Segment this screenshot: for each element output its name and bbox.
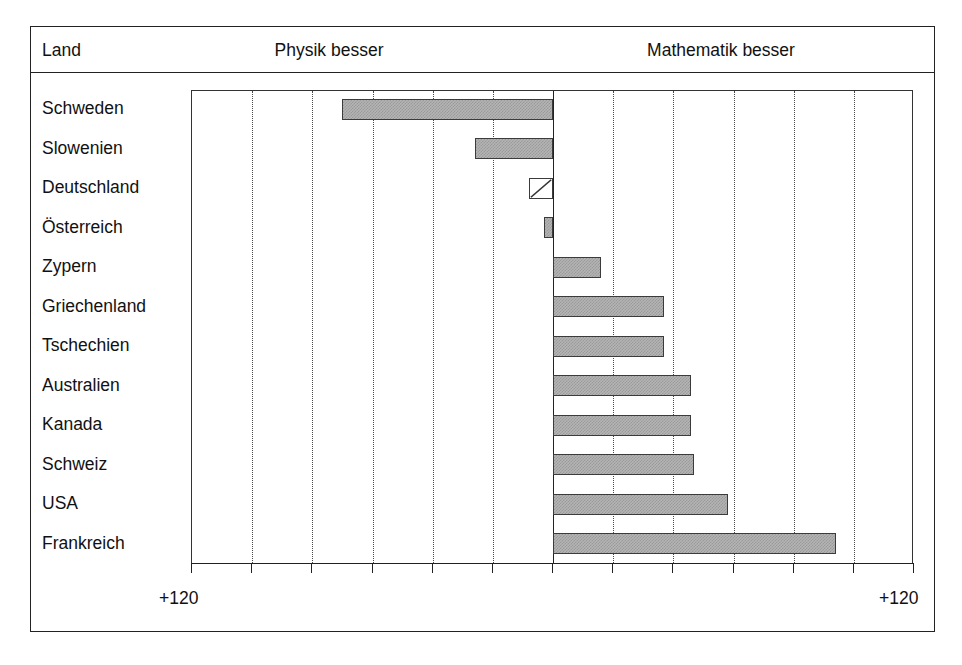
category-label: Kanada: [42, 414, 102, 434]
bar-tschechien: [553, 336, 664, 357]
category-label: Österreich: [42, 217, 123, 237]
x-axis-tick: [492, 563, 493, 573]
x-axis-tick: [372, 563, 373, 573]
x-axis-tick: [853, 563, 854, 573]
category-label: USA: [42, 493, 78, 513]
x-axis-tick: [432, 563, 433, 573]
x-axis-tick: [913, 563, 914, 573]
gridline: [734, 91, 735, 563]
category-label: Australien: [42, 375, 120, 395]
gridline: [673, 91, 674, 563]
bar-zypern: [553, 257, 601, 278]
x-axis: [191, 563, 913, 579]
gridline: [433, 91, 434, 563]
x-axis-tick: [251, 563, 252, 573]
x-axis-tick: [733, 563, 734, 573]
gridline: [373, 91, 374, 563]
bar-griechenland: [553, 296, 664, 317]
chart-header: Land Physik besser Mathematik besser: [31, 27, 934, 73]
category-label: Schweden: [42, 98, 124, 118]
bar-schweiz: [553, 454, 694, 475]
category-labels-column: SchwedenSlowenienDeutschlandÖsterreichZy…: [31, 73, 191, 619]
x-axis-tick: [311, 563, 312, 573]
x-axis-left-end-label: +120: [159, 587, 198, 609]
zero-axis-line: [553, 91, 554, 563]
column-header-land: Land: [42, 27, 81, 73]
bar-sterreich: [544, 217, 553, 238]
category-label: Slowenien: [42, 138, 123, 158]
gridline: [312, 91, 313, 563]
category-label: Frankreich: [42, 533, 125, 553]
plot-area: [191, 90, 913, 564]
x-axis-tick: [793, 563, 794, 573]
gridline: [252, 91, 253, 563]
bar-usa: [553, 494, 728, 515]
category-label: Zypern: [42, 256, 96, 276]
category-label: Tschechien: [42, 335, 130, 355]
x-axis-right-end-label: +120: [879, 587, 918, 609]
figure-frame: Land Physik besser Mathematik besser Sch…: [30, 26, 935, 632]
category-label: Schweiz: [42, 454, 107, 474]
bar-kanada: [553, 415, 691, 436]
bar-australien: [553, 375, 691, 396]
header-mathematik-besser: Mathematik besser: [511, 27, 931, 73]
gridline: [493, 91, 494, 563]
header-physik-besser: Physik besser: [149, 27, 509, 73]
gridline: [794, 91, 795, 563]
x-axis-tick: [612, 563, 613, 573]
diagonal-hatch-icon: [530, 179, 552, 198]
x-axis-tick: [191, 563, 192, 573]
bar-deutschland: [529, 178, 553, 199]
x-axis-tick: [552, 563, 553, 573]
bar-schweden: [342, 99, 553, 120]
bar-slowenien: [475, 138, 553, 159]
category-label: Griechenland: [42, 296, 146, 316]
category-label: Deutschland: [42, 177, 139, 197]
bar-frankreich: [553, 533, 836, 554]
x-axis-tick: [672, 563, 673, 573]
gridline: [854, 91, 855, 563]
gridline: [613, 91, 614, 563]
